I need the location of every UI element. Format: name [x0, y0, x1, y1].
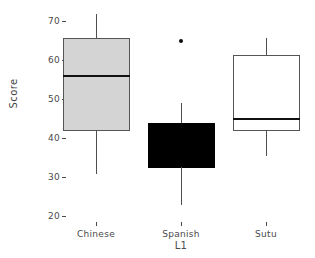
y-axis-tick-mark-70 [62, 21, 66, 22]
x-axis-label-spanish-l1: Spanish L1 [136, 228, 226, 252]
whisker-lower-spanish-l1 [181, 167, 182, 205]
whisker-upper-spanish-l1 [181, 103, 182, 125]
y-axis-tick-label-20: 20 [20, 210, 60, 222]
y-axis-tick-mark-20 [62, 216, 66, 217]
whisker-upper-sutu [266, 38, 267, 56]
box-chinese [63, 38, 130, 131]
y-axis-title: Score [8, 68, 19, 120]
x-axis-tick-mark-chinese [96, 222, 97, 226]
x-axis-label-spanish-line2: L1 [136, 240, 226, 252]
y-axis-tick-label-50: 50 [20, 93, 60, 105]
x-axis-label-sutu: Sutu [221, 228, 311, 240]
x-axis-tick-mark-sutu [266, 222, 267, 226]
x-axis-tick-mark-spanish-l1 [181, 222, 182, 226]
y-axis-tick-label-40: 40 [20, 132, 60, 144]
outlier-point-spanish-l1 [179, 39, 183, 43]
x-axis-label-chinese: Chinese [51, 228, 141, 240]
median-line-chinese [63, 75, 130, 77]
whisker-lower-sutu [266, 130, 267, 156]
y-axis-tick-label-30: 30 [20, 171, 60, 183]
x-axis-label-spanish-line1: Spanish [162, 229, 200, 239]
y-axis-tick-mark-40 [62, 138, 66, 139]
y-axis-tick-mark-30 [62, 177, 66, 178]
boxplot-chart: Score 70 60 50 40 30 20 Chinese Spanish [0, 0, 315, 258]
y-axis-tick-label-60: 60 [20, 54, 60, 66]
median-line-sutu [233, 118, 300, 120]
y-axis-tick-label-70: 70 [20, 15, 60, 27]
box-spanish-l1 [148, 123, 215, 168]
x-axis-label-chinese-line1: Chinese [77, 229, 115, 239]
whisker-lower-chinese [96, 130, 97, 174]
whisker-upper-chinese [96, 14, 97, 39]
x-axis-label-sutu-line1: Sutu [255, 229, 277, 239]
